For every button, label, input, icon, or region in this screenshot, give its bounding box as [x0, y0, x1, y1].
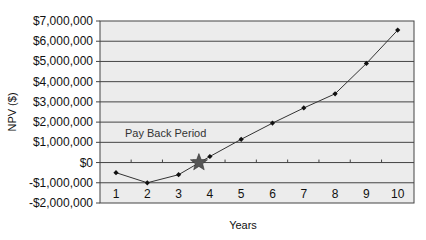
- x-tick-label: 5: [238, 187, 245, 201]
- y-tick-label: $0: [80, 156, 94, 170]
- x-tick-label: 2: [144, 187, 151, 201]
- y-tick-label: $6,000,000: [33, 34, 93, 48]
- x-tick-label: 7: [300, 187, 307, 201]
- y-tick-label: $5,000,000: [33, 54, 93, 68]
- y-tick-label: -$2,000,000: [29, 196, 93, 210]
- x-tick-label: 6: [269, 187, 276, 201]
- y-tick-label: $2,000,000: [33, 115, 93, 129]
- x-tick-label: 8: [332, 187, 339, 201]
- y-tick-label: $1,000,000: [33, 135, 93, 149]
- npv-chart: $7,000,000$6,000,000$5,000,000$4,000,000…: [0, 0, 426, 240]
- x-tick-label: 1: [113, 187, 120, 201]
- y-tick-label: -$1,000,000: [29, 176, 93, 190]
- y-axis-ticks: $7,000,000$6,000,000$5,000,000$4,000,000…: [29, 14, 100, 210]
- x-tick-label: 3: [175, 187, 182, 201]
- y-tick-label: $3,000,000: [33, 95, 93, 109]
- plot-area: [100, 21, 414, 203]
- y-tick-label: $4,000,000: [33, 75, 93, 89]
- y-tick-label: $7,000,000: [33, 14, 93, 28]
- x-tick-label: 10: [391, 187, 405, 201]
- y-axis-label: NPV ($): [6, 92, 18, 131]
- x-tick-label: 4: [207, 187, 214, 201]
- x-tick-label: 9: [363, 187, 370, 201]
- payback-label: Pay Back Period: [125, 127, 206, 139]
- x-axis-label: Years: [229, 219, 257, 231]
